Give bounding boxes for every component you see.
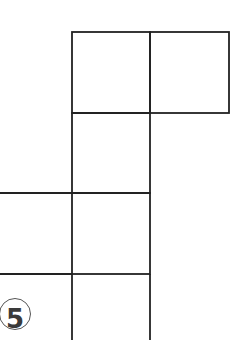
figure-number: 5 xyxy=(0,306,30,332)
grid-net-diagram xyxy=(0,0,237,340)
cell-top-right xyxy=(150,32,229,113)
cell-lower xyxy=(72,193,150,274)
cell-top-left xyxy=(72,32,150,113)
cell-middle xyxy=(72,113,150,193)
figure-number-badge: 5 xyxy=(0,298,31,330)
